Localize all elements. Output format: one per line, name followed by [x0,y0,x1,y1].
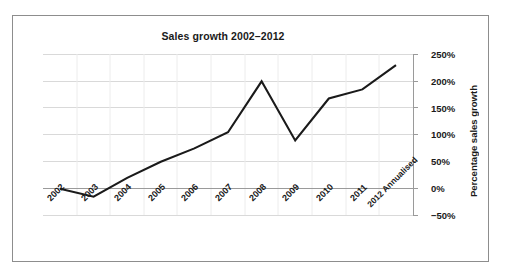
ytick-label-100: 100% [431,129,455,140]
chart-frame: Sales growth 2002–2012 [12,15,489,262]
ytick-label-250: 250% [431,49,455,60]
yaxis-title: Percentage sales growth [468,66,482,216]
ytick-label-0: 0% [431,183,445,194]
value-axis [413,54,418,216]
chart-figure: Sales growth 2002–2012 [0,0,505,279]
line-chart-plot [13,16,490,263]
ytick-label-200: 200% [431,76,455,87]
ytick-label-150: 150% [431,103,455,114]
ytick-label-50: 50% [431,156,450,167]
ytick-label-neg50: −50% [431,210,456,221]
